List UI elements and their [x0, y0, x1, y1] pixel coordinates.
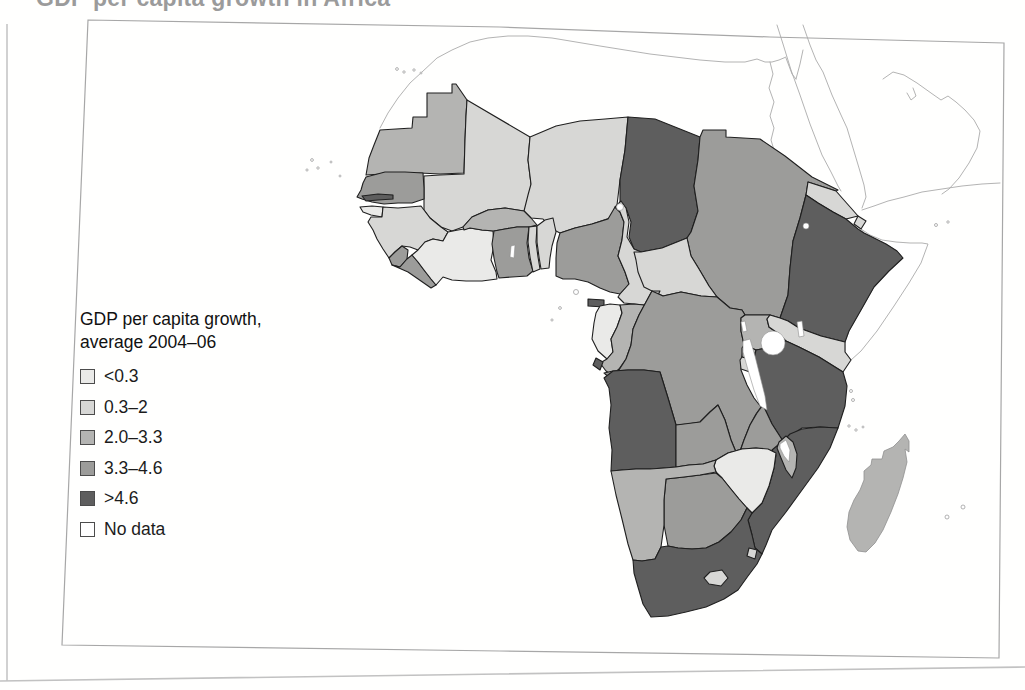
legend-swatch	[80, 522, 95, 537]
canary-islands-icon	[420, 72, 422, 74]
nile-river	[769, 62, 774, 150]
legend-swatch	[80, 369, 95, 384]
comoros-islands-icon	[848, 425, 850, 427]
legend-item: >4.6	[80, 491, 315, 507]
legend-title-line1: GDP per capita growth,	[80, 308, 315, 331]
bioko-island-icon	[574, 290, 579, 295]
countries	[357, 84, 903, 617]
socotra-island-icon	[935, 224, 938, 227]
legend-swatch	[80, 461, 95, 476]
lake-tana	[803, 223, 809, 229]
sao-tome-island-icon	[559, 307, 562, 310]
country-mauritania	[366, 84, 467, 175]
legend-item: 3.3–4.6	[80, 460, 315, 476]
cape-verde-islands-icon	[339, 175, 341, 177]
cape-verde-islands-icon	[306, 169, 308, 171]
legend-item: <0.3	[80, 369, 315, 385]
socotra-island-icon	[947, 221, 949, 223]
country-cabinda	[593, 358, 603, 370]
canary-islands-icon	[413, 69, 415, 71]
page-bottom-edge	[0, 667, 1025, 681]
principe-island-icon	[551, 319, 553, 321]
country-guinea-bissau	[360, 206, 383, 217]
legend-item: 0.3–2	[80, 399, 315, 415]
qatar-coastline	[907, 88, 916, 100]
canary-islands-icon	[396, 68, 399, 71]
legend: GDP per capita growth, average 2004–06 <…	[80, 308, 315, 537]
comoros-islands-icon	[855, 429, 857, 431]
cape-verde-islands-icon	[317, 167, 319, 169]
pemba-island-icon	[852, 399, 855, 402]
legend-label: 3.3–4.6	[104, 458, 162, 479]
country-benin	[537, 218, 556, 269]
legend-label: No data	[104, 519, 165, 540]
aqaba-coastline	[796, 50, 803, 79]
legend-swatch	[80, 400, 95, 415]
legend-label: 2.0–3.3	[104, 427, 162, 448]
scanned-page: GDP per capita growth in Africa	[0, 0, 1025, 690]
persian-gulf-coastline	[883, 72, 980, 194]
legend-label: 0.3–2	[104, 397, 148, 418]
comoros-islands-icon	[862, 426, 864, 428]
cape-verde-islands-icon	[330, 161, 332, 163]
zanzibar-island-icon	[850, 390, 853, 393]
legend-swatch	[80, 430, 95, 445]
lake-victoria	[761, 331, 785, 355]
legend-item: 2.0–3.3	[80, 430, 315, 446]
legend-label: <0.3	[104, 366, 139, 387]
legend-title-line2: average 2004–06	[80, 331, 315, 354]
legend-swatch	[80, 491, 95, 506]
reunion-island-icon	[961, 505, 965, 509]
lake-volta	[510, 245, 515, 258]
arabia-south-coastline	[862, 183, 1000, 210]
lake-chad	[617, 204, 624, 211]
mauritius-island-icon	[945, 515, 949, 519]
legend-label: >4.6	[104, 488, 139, 509]
legend-item: No data	[80, 521, 315, 537]
country-chad	[620, 117, 700, 252]
cape-verde-islands-icon	[311, 159, 314, 162]
country-madagascar	[847, 434, 909, 552]
canary-islands-icon	[403, 71, 405, 73]
